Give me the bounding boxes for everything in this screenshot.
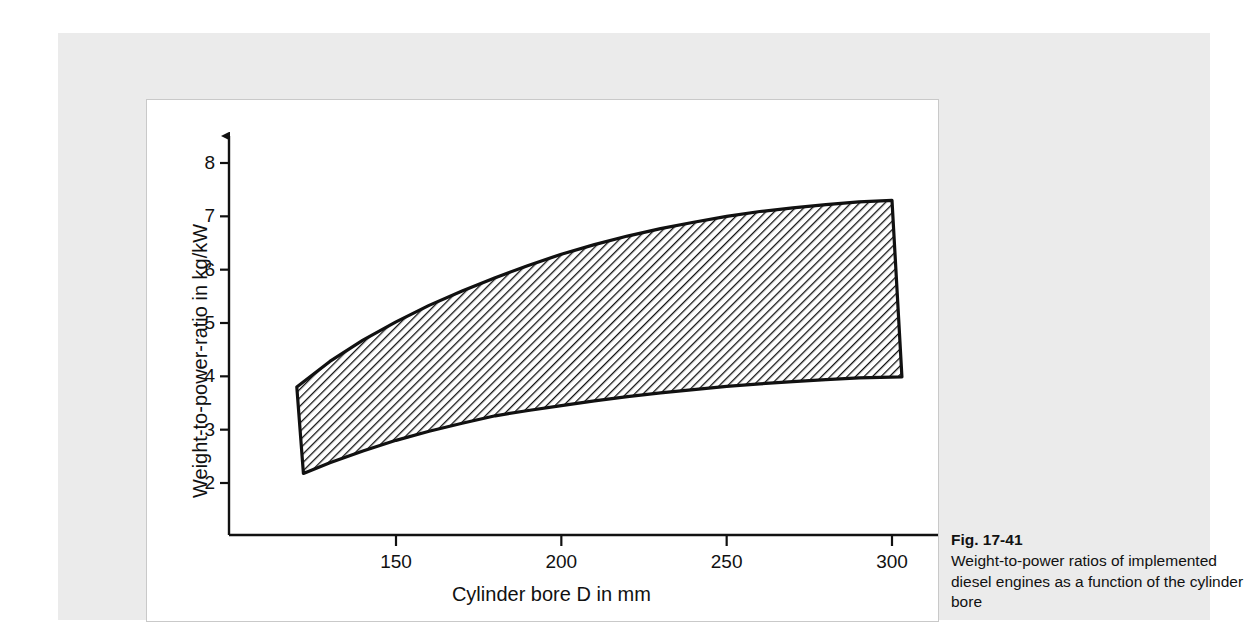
- figure-panel: 2345678 150200250300 Cylinder bore D in …: [58, 33, 1210, 620]
- x-tick-label: 150: [380, 551, 412, 573]
- chart-plot-area: [147, 100, 938, 621]
- figure-caption: Fig. 17-41 Weight-to-power ratios of imp…: [951, 530, 1248, 613]
- x-tick-label: 300: [876, 551, 908, 573]
- y-axis-title: Weight-to-power-ratio in kg/kW: [189, 224, 212, 498]
- x-tick-label: 250: [711, 551, 743, 573]
- x-tick-label: 200: [545, 551, 577, 573]
- data-band: [297, 200, 902, 473]
- x-axis-title: Cylinder bore D in mm: [452, 583, 651, 606]
- figure-caption-text: Weight-to-power ratios of implemented di…: [951, 551, 1248, 612]
- y-tick-label: 8: [204, 152, 215, 174]
- plot-card: 2345678 150200250300 Cylinder bore D in …: [146, 99, 939, 622]
- figure-number: Fig. 17-41: [951, 530, 1248, 550]
